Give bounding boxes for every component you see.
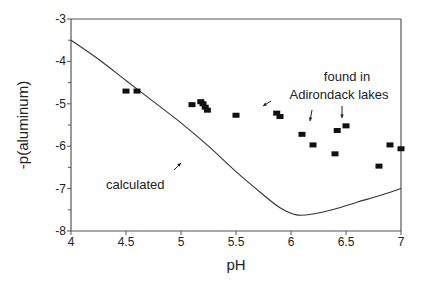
arrowhead-icon bbox=[309, 117, 312, 121]
calculated-label: calculated bbox=[106, 177, 165, 192]
data-point bbox=[332, 151, 339, 156]
data-point bbox=[398, 146, 405, 151]
annotations bbox=[174, 101, 344, 170]
x-tick-label: 7 bbox=[398, 235, 405, 249]
y-tick-label: -4 bbox=[55, 54, 66, 68]
x-tick-label: 4 bbox=[68, 235, 75, 249]
data-point bbox=[334, 128, 341, 133]
y-tick-label: -8 bbox=[55, 224, 66, 238]
chart-root: -3-4-5-6-7-844.555.566.57 pH -p(aluminum… bbox=[0, 0, 425, 282]
y-tick-label: -6 bbox=[55, 139, 66, 153]
data-point bbox=[299, 132, 306, 137]
data-point bbox=[310, 142, 317, 147]
data-point bbox=[123, 89, 130, 94]
y-tick-label: -7 bbox=[55, 182, 66, 196]
x-tick-label: 5.5 bbox=[228, 235, 245, 249]
data-point bbox=[189, 102, 196, 107]
data-point bbox=[134, 89, 141, 94]
found-label-line2: Adirondack lakes bbox=[290, 87, 389, 102]
data-point bbox=[277, 114, 284, 119]
x-tick-label: 5 bbox=[178, 235, 185, 249]
arrowhead-icon bbox=[340, 114, 343, 118]
y-tick-label: -3 bbox=[55, 12, 66, 26]
x-tick-label: 6 bbox=[288, 235, 295, 249]
data-point bbox=[233, 113, 240, 118]
data-point bbox=[387, 142, 394, 147]
data-point bbox=[376, 164, 383, 169]
x-tick-label: 6.5 bbox=[338, 235, 355, 249]
data-point bbox=[343, 123, 350, 128]
y-tick-label: -5 bbox=[55, 97, 66, 111]
found-label-line1: found in bbox=[324, 69, 370, 84]
axes: -3-4-5-6-7-844.555.566.57 bbox=[55, 12, 404, 249]
data-point bbox=[204, 108, 211, 113]
x-axis-title: pH bbox=[226, 256, 245, 273]
x-tick-label: 4.5 bbox=[118, 235, 135, 249]
y-axis-title: -p(aluminum) bbox=[14, 81, 31, 169]
